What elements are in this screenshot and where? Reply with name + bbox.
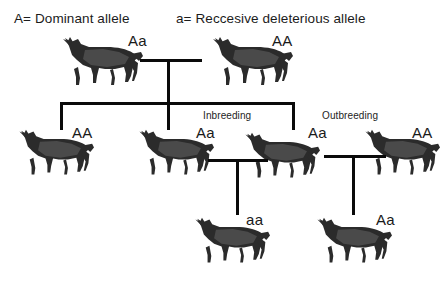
legend-dominant-allele: A= Dominant allele	[14, 11, 130, 26]
mating-bar-gen1	[140, 59, 202, 62]
genotype-label-f1d: AA	[412, 124, 433, 141]
genotype-label-f2a: aa	[246, 211, 263, 228]
genotype-label-p2: AA	[272, 32, 293, 49]
mating-bar-outbreeding	[324, 155, 386, 158]
mating-drop-outbreeding	[352, 155, 355, 215]
mating-drop-gen1	[167, 59, 170, 105]
sibship-drop-f1a	[60, 102, 63, 130]
caption-inbreeding: Inbreeding	[203, 110, 251, 121]
genotype-label-f2b: Aa	[376, 211, 395, 228]
legend-recessive-allele: a= Reccesive deleterious allele	[176, 11, 366, 26]
pedigree-diagram: A= Dominant allele a= Reccesive deleteri…	[0, 0, 447, 283]
genotype-label-f1b: Aa	[196, 124, 215, 141]
genotype-label-p1: Aa	[128, 32, 147, 49]
sibship-drop-f1c	[292, 102, 295, 130]
genotype-label-f1c: Aa	[308, 124, 327, 141]
sibship-drop-f1b	[167, 102, 170, 130]
sibship-bar-gen2	[60, 102, 295, 105]
genotype-label-f1a: AA	[72, 124, 93, 141]
mating-drop-inbreeding	[236, 159, 239, 215]
caption-outbreeding: Outbreeding	[322, 110, 378, 121]
